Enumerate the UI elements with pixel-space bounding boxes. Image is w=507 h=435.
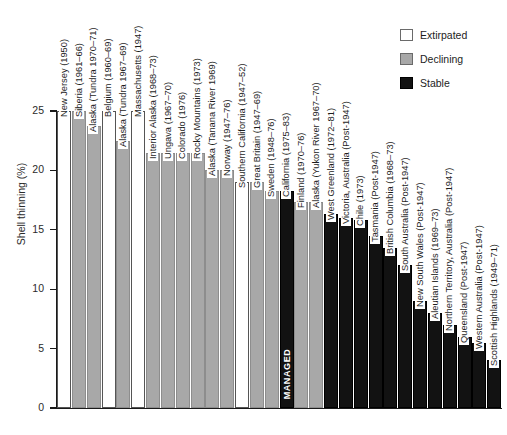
x-axis-category-label: Belgium (1960–69) [103,37,113,119]
x-axis-category-label: West Greenland (1972–81) [326,107,336,222]
bar-stable [398,265,412,408]
bar-stable: MANAGED [280,191,294,408]
y-axis-tick-label: 0 [18,401,44,413]
legend-label: Declining [420,53,463,65]
bar-declining [146,153,160,408]
x-axis-category-label: New South Wales (Post-1947) [415,181,425,309]
x-axis-category-label: Colorado (1976) [177,90,187,160]
x-axis-category-label: Finland (1970–76) [296,132,306,210]
bar-stable [413,301,427,408]
bar-extirpated [102,111,116,408]
x-axis-category-label: Alaska (Yukon River 1967–70) [311,82,321,211]
bar-extirpated [57,111,71,408]
bar-declining [191,153,205,408]
bar-declining [205,170,219,408]
managed-annotation: MANAGED [282,349,292,400]
bar-declining [176,153,190,408]
legend-item-extirpated: Extirpated [400,28,467,41]
legend-item-declining: Declining [400,52,467,65]
bar-declining [265,191,279,408]
legend-swatch-declining [400,53,413,65]
x-axis-category-label: Alaska (Tanana River 1969) [207,61,217,179]
shell-thinning-bar-chart: Shell thinning (%) 0510152025 MANAGED Ex… [0,0,507,435]
x-axis-category-label: Western Australia (Post-1947) [474,224,484,351]
bar-extirpated [235,182,249,408]
bar-stable [369,236,383,408]
x-axis-category-label: Alaska (Tundra 1967–69) [118,41,128,149]
x-axis-category-label: Ungava (1967–70) [163,81,173,161]
x-axis-category-label: Queensland (Post-1947) [459,240,469,344]
x-axis-category-label: Southern California (1947–52) [237,63,247,191]
bar-stable [324,214,338,408]
y-axis-tick-label: 25 [18,104,44,116]
bar-declining [72,111,86,408]
x-axis-category-label: Siberia (1961–66) [74,42,84,119]
bar-declining [116,141,130,408]
bar-declining [87,126,101,408]
x-axis-category-label: New Jersey (1950) [59,38,69,119]
bar-declining [161,153,175,408]
x-axis-category-label: California (1975–83) [281,111,291,198]
bar-extirpated [131,111,145,408]
legend-swatch-extirpated [400,29,413,41]
x-axis-category-label: South Australia (Post-1947) [400,157,410,274]
x-axis-category-label: Rocky Mountains (1973) [192,57,202,161]
bar-declining [250,182,264,408]
x-axis-category-label: Northern Territory, Australia (Post-1947… [444,166,454,332]
y-axis-tick-label: 5 [18,342,44,354]
bar-stable [354,220,368,408]
bar-stable [383,248,397,408]
x-axis-category-label: Victoria, Australia (Post-1947) [341,100,351,226]
y-axis-tick-label: 15 [18,223,44,235]
legend-swatch-stable [400,77,413,89]
x-axis-category-label: Norway (1947–76) [222,99,232,178]
bar-stable [339,218,353,408]
x-axis-category-label: Sweden (1948–76) [266,117,276,199]
x-axis-category-label: Interior Alaska (1968–73) [148,54,158,161]
bar-stable [458,337,472,408]
y-axis-ticks: 0510152025 [0,0,56,435]
bar-declining [220,170,234,408]
x-axis-category-label: Massachusetts (1947) [133,25,143,119]
legend-label: Stable [420,77,450,89]
y-axis-tick-label: 10 [18,282,44,294]
legend-item-stable: Stable [400,76,467,89]
x-axis-category-label: Tasmania (Post-1947) [370,150,380,244]
legend: ExtirpatedDecliningStable [400,28,467,100]
bar-stable [428,313,442,408]
x-axis-category-label: Scottish Highlands (1949–71) [489,244,499,369]
bar-stable [443,325,457,408]
legend-label: Extirpated [420,29,467,41]
y-axis-tick-label: 20 [18,163,44,175]
x-axis-category-label: British Columbia (1968–73) [385,140,395,256]
x-axis-line [56,408,502,409]
x-axis-category-label: Alaska (Tundra 1970–71) [88,27,98,135]
x-axis-category-label: Chile (1973) [355,175,365,229]
bar-declining [294,202,308,408]
bar-declining [309,202,323,408]
x-axis-category-label: Aleutian Islands (1969–73) [430,207,440,321]
bar-stable [472,343,486,408]
x-axis-category-label: Great Britain (1947–69) [252,90,262,190]
